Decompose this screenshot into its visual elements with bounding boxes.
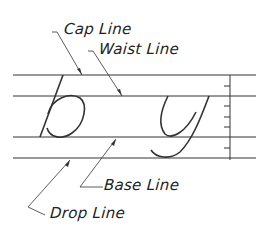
drop-line-label: Drop Line	[49, 204, 125, 222]
waist-line-label: Waist Line	[98, 40, 179, 58]
cap-line-leader	[52, 32, 82, 75]
lettering-guide-diagram: Cap Line Waist Line Base Line Drop Line	[0, 0, 269, 239]
guide-lines-drawing	[0, 0, 269, 239]
cap-line-label: Cap Line	[63, 20, 132, 38]
letter-y	[151, 96, 209, 157]
scale-ruler	[224, 75, 230, 160]
letter-b	[40, 75, 84, 137]
base-line-label: Base Line	[103, 176, 180, 194]
